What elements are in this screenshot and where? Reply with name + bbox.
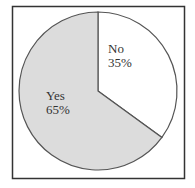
pie-chart: No 35% Yes 65% [0,0,195,188]
pie-slices [19,12,177,170]
slice-label-yes-name: Yes [46,88,65,103]
slice-label-no-name: No [108,41,124,56]
slice-label-yes-value: 65% [46,102,70,117]
slice-label-no-value: 35% [108,55,132,70]
